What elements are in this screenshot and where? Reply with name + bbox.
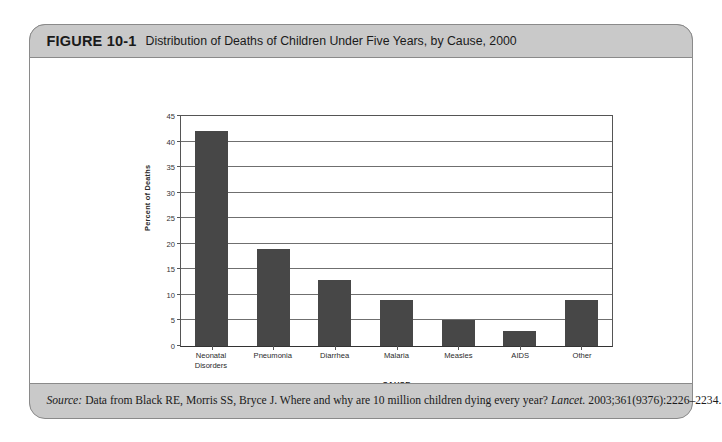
y-tick-label: 15 <box>167 265 175 274</box>
bar <box>442 320 475 346</box>
bar-slot <box>489 116 551 346</box>
source-text: Data from Black RE, Morris SS, Bryce J. … <box>85 394 548 407</box>
x-tick-label-line: Neonatal <box>180 351 242 361</box>
x-tick-label: AIDS <box>489 351 551 372</box>
x-tick-mark <box>520 346 521 350</box>
y-tick-label: 35 <box>167 163 175 172</box>
x-tick-label-line: Other <box>551 351 613 361</box>
plot-area: 051015202530354045 <box>180 115 613 347</box>
x-tick-mark <box>581 346 582 350</box>
bar-slot <box>427 116 489 346</box>
bar-slot <box>243 116 305 346</box>
bar-series <box>181 116 612 346</box>
y-tick-label: 5 <box>171 316 175 325</box>
x-tick-label: Malaria <box>366 351 428 372</box>
x-tick-label: Other <box>551 351 613 372</box>
y-tick-label: 25 <box>167 214 175 223</box>
x-tick-label-line: AIDS <box>489 351 551 361</box>
source-citation: 2003;361(9376):2226–2234. <box>588 394 721 407</box>
y-axis-title: Percent of Deaths <box>143 165 152 231</box>
bar <box>195 131 228 346</box>
y-tick-label: 20 <box>167 239 175 248</box>
y-tick-label: 10 <box>167 290 175 299</box>
figure-title: Distribution of Deaths of Children Under… <box>146 34 517 48</box>
figure-number: FIGURE 10-1 <box>47 33 137 49</box>
y-tick-label: 0 <box>171 342 175 351</box>
x-tick-label: NeonatalDisorders <box>180 351 242 372</box>
figure-source: Source: Data from Black RE, Morris SS, B… <box>29 383 693 419</box>
x-tick-mark <box>335 346 336 350</box>
source-label: Source: <box>47 394 83 407</box>
figure-header: FIGURE 10-1 Distribution of Deaths of Ch… <box>29 24 693 58</box>
bar <box>565 300 598 346</box>
bar-slot <box>550 116 612 346</box>
x-tick-label-line: Pneumonia <box>242 351 304 361</box>
bar <box>318 280 351 346</box>
bar-chart: Percent of Deaths 051015202530354045 Neo… <box>30 59 691 381</box>
source-journal: Lancet. <box>551 394 585 407</box>
x-tick-label-line: Diarrhea <box>304 351 366 361</box>
bar <box>503 331 536 346</box>
x-tick-mark <box>397 346 398 350</box>
bar-slot <box>181 116 243 346</box>
x-tick-label: Pneumonia <box>242 351 304 372</box>
bar <box>257 249 290 346</box>
x-tick-label: Measles <box>427 351 489 372</box>
x-tick-mark <box>212 346 213 350</box>
x-tick-label-line: Measles <box>427 351 489 361</box>
x-tick-mark <box>273 346 274 350</box>
bar <box>380 300 413 346</box>
figure-container: FIGURE 10-1 Distribution of Deaths of Ch… <box>29 24 693 418</box>
x-axis-labels: NeonatalDisordersPneumoniaDiarrheaMalari… <box>180 351 613 372</box>
y-tick-label: 45 <box>167 112 175 121</box>
bar-slot <box>366 116 428 346</box>
x-tick-label-line: Disorders <box>180 361 242 371</box>
y-tick-label: 40 <box>167 137 175 146</box>
x-tick-label-line: Malaria <box>366 351 428 361</box>
x-tick-mark <box>458 346 459 350</box>
y-tick-label: 30 <box>167 188 175 197</box>
bar-slot <box>304 116 366 346</box>
x-tick-label: Diarrhea <box>304 351 366 372</box>
